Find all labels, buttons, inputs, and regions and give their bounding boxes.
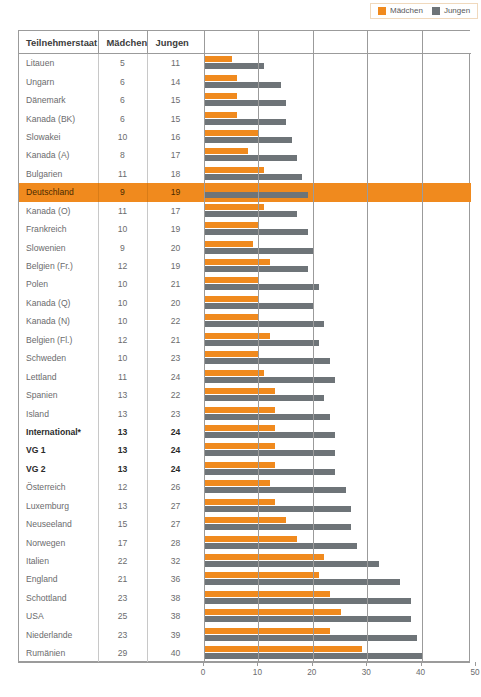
bar-jungen	[205, 395, 325, 401]
axis-tick-40	[421, 662, 422, 666]
table-row[interactable]: Niederlande2339	[19, 626, 471, 644]
cell-bar-chart	[204, 91, 471, 109]
cell-country: England	[19, 570, 98, 588]
bar-maedchen	[205, 572, 319, 578]
bar-maedchen	[205, 167, 265, 173]
bar-maedchen	[205, 112, 238, 118]
cell-bar-chart	[204, 238, 471, 256]
cell-girls-value: 10	[98, 349, 147, 367]
table-row[interactable]: VG 11324	[19, 441, 471, 459]
cell-boys-value: 36	[147, 570, 204, 588]
bar-group	[205, 441, 472, 459]
table-row[interactable]: England2136	[19, 570, 471, 588]
cell-boys-value: 39	[147, 626, 204, 644]
cell-boys-value: 19	[147, 257, 204, 275]
table-row[interactable]: VG 21324	[19, 460, 471, 478]
legend-entry-maedchen[interactable]: Mädchen	[378, 7, 423, 15]
table-row[interactable]: USA2538	[19, 607, 471, 625]
cell-girls-value: 13	[98, 423, 147, 441]
table-row[interactable]: Schottland2338	[19, 589, 471, 607]
cell-boys-value: 18	[147, 165, 204, 183]
cell-country: Dänemark	[19, 91, 98, 109]
table-row[interactable]: Norwegen1728	[19, 533, 471, 551]
cell-bar-chart	[204, 165, 471, 183]
bar-jungen	[205, 340, 319, 346]
table-row[interactable]: Belgien (Fl.)1221	[19, 331, 471, 349]
table-row[interactable]: Neuseeland1527	[19, 515, 471, 533]
bar-group	[205, 626, 472, 644]
table-row[interactable]: Island1323	[19, 404, 471, 422]
cell-country: Italien	[19, 552, 98, 570]
bar-jungen	[205, 174, 303, 180]
table-row[interactable]: Rumänien2940	[19, 644, 471, 662]
legend-label: Jungen	[444, 7, 470, 15]
cell-boys-value: 20	[147, 238, 204, 256]
cell-girls-value: 10	[98, 312, 147, 330]
axis-tick-10	[257, 662, 258, 666]
table-row[interactable]: Belgien (Fr.)1219	[19, 257, 471, 275]
table-row[interactable]: Italien2232	[19, 552, 471, 570]
bar-group	[205, 275, 472, 293]
bar-maedchen	[205, 609, 341, 615]
table-row[interactable]: Litauen511	[19, 54, 471, 73]
cell-country: Kanada (A)	[19, 146, 98, 164]
cell-girls-value: 12	[98, 257, 147, 275]
cell-country: Island	[19, 404, 98, 422]
cell-girls-value: 17	[98, 533, 147, 551]
cell-country: Schweden	[19, 349, 98, 367]
cell-boys-value: 24	[147, 367, 204, 385]
legend-entry-jungen[interactable]: Jungen	[432, 7, 470, 15]
table-row[interactable]: Luxemburg1327	[19, 497, 471, 515]
cell-girls-value: 23	[98, 626, 147, 644]
square-orange-icon	[378, 7, 386, 15]
table-row[interactable]: Österreich1226	[19, 478, 471, 496]
cell-girls-value: 29	[98, 644, 147, 662]
table-row[interactable]: Deutschland919	[19, 183, 471, 201]
cell-bar-chart	[204, 54, 471, 73]
cell-girls-value: 6	[98, 72, 147, 90]
bar-group	[205, 331, 472, 349]
cell-bar-chart	[204, 128, 471, 146]
table-row[interactable]: Slowenien920	[19, 238, 471, 256]
cell-girls-value: 10	[98, 128, 147, 146]
cell-girls-value: 11	[98, 202, 147, 220]
table-row[interactable]: Ungarn614	[19, 72, 471, 90]
column-header-country[interactable]: Teilnehmerstaat	[19, 31, 98, 54]
axis-tick-label-10: 10	[253, 668, 262, 677]
table-row[interactable]: Dänemark615	[19, 91, 471, 109]
cell-boys-value: 24	[147, 441, 204, 459]
axis-tick-50	[475, 662, 476, 666]
cell-bar-chart	[204, 515, 471, 533]
table-row[interactable]: Lettland1124	[19, 367, 471, 385]
bar-group	[205, 607, 472, 625]
table-row[interactable]: Polen1021	[19, 275, 471, 293]
cell-girls-value: 8	[98, 146, 147, 164]
bar-jungen	[205, 635, 417, 641]
table-row[interactable]: Kanada (BK)615	[19, 109, 471, 127]
table-row[interactable]: Bulgarien1118	[19, 165, 471, 183]
cell-bar-chart	[204, 257, 471, 275]
chart-legend: MädchenJungen	[370, 3, 478, 19]
bar-jungen	[205, 469, 336, 475]
bar-jungen	[205, 487, 346, 493]
bar-maedchen	[205, 443, 276, 449]
cell-boys-value: 15	[147, 91, 204, 109]
table-row[interactable]: Kanada (O)1117	[19, 202, 471, 220]
bar-group	[205, 404, 472, 422]
column-header-girls[interactable]: Mädchen	[98, 31, 147, 54]
table-row[interactable]: Kanada (Q)1020	[19, 294, 471, 312]
cell-boys-value: 32	[147, 552, 204, 570]
table-row[interactable]: Kanada (N)1022	[19, 312, 471, 330]
table-row[interactable]: Schweden1023	[19, 349, 471, 367]
table-row[interactable]: Spanien1322	[19, 386, 471, 404]
bar-jungen	[205, 284, 319, 290]
table-row[interactable]: Frankreich1019	[19, 220, 471, 238]
table-row[interactable]: Kanada (A)817	[19, 146, 471, 164]
bar-jungen	[205, 321, 325, 327]
cell-boys-value: 21	[147, 275, 204, 293]
table-row[interactable]: International*1324	[19, 423, 471, 441]
table-row[interactable]: Slowakei1016	[19, 128, 471, 146]
column-header-boys[interactable]: Jungen	[147, 31, 204, 54]
bar-jungen	[205, 561, 379, 567]
bar-group	[205, 589, 472, 607]
